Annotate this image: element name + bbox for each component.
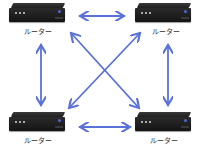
router-label-bottom-right: ルーター — [134, 135, 194, 145]
router-top-left — [9, 3, 67, 25]
router-top-right — [135, 3, 193, 25]
router-label-top-right: ルーター — [136, 26, 196, 36]
router-label-bottom-left: ルーター — [8, 135, 68, 145]
router-bottom-left — [9, 112, 67, 134]
router-bottom-right — [135, 112, 193, 134]
router-label-top-left: ルーター — [8, 26, 68, 36]
